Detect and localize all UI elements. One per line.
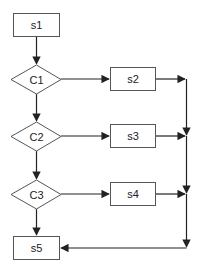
- node-s4-label: s4: [127, 188, 139, 200]
- node-s5[interactable]: s5: [14, 237, 60, 260]
- node-s1-label: s1: [31, 19, 43, 31]
- node-s4[interactable]: s4: [111, 183, 156, 206]
- flowchart-canvas: s1 C1 s2 C2 s3: [0, 0, 202, 268]
- flowchart-svg: s1 C1 s2 C2 s3: [0, 0, 202, 268]
- node-s2[interactable]: s2: [111, 68, 156, 91]
- node-s3-label: s3: [127, 130, 139, 142]
- node-c1[interactable]: C1: [11, 65, 61, 94]
- node-s1[interactable]: s1: [14, 14, 60, 37]
- node-s3[interactable]: s3: [111, 125, 156, 148]
- node-c2-label: C2: [29, 131, 43, 143]
- node-s5-label: s5: [31, 242, 43, 254]
- node-c3-label: C3: [29, 189, 43, 201]
- node-c3[interactable]: C3: [11, 180, 61, 209]
- node-c2[interactable]: C2: [11, 122, 61, 151]
- node-c1-label: C1: [29, 74, 43, 86]
- node-s2-label: s2: [127, 73, 139, 85]
